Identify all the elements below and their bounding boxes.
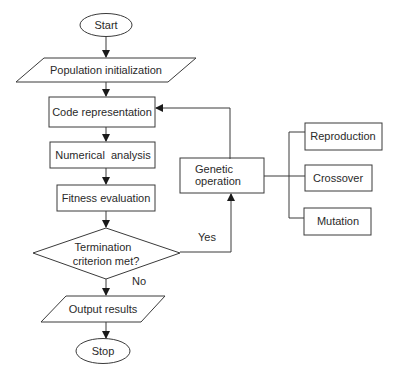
- branch-bus: [289, 132, 305, 218]
- start-label: Start: [94, 19, 117, 31]
- edge-genetic-to-code-loop: [156, 108, 230, 159]
- mutation-label: Mutation: [317, 215, 359, 227]
- edge-yes-to-genetic: [180, 194, 231, 252]
- genetic-operation-label-line1: Genetic: [195, 163, 233, 175]
- termination-label-line2: criterion met?: [73, 255, 140, 267]
- genetic-operation-label-line2: operation: [195, 175, 241, 187]
- output-results-label: Output results: [69, 303, 138, 315]
- termination-label-line1: Termination: [75, 241, 132, 253]
- stop-label: Stop: [92, 345, 115, 357]
- crossover-label: Crossover: [313, 172, 363, 184]
- termination-node: [33, 228, 180, 279]
- no-label: No: [132, 275, 146, 287]
- numerical-analysis-label: Numerical analysis: [55, 149, 151, 161]
- population-init-label: Population initialization: [50, 64, 162, 76]
- reproduction-label: Reproduction: [310, 130, 375, 142]
- yes-label: Yes: [198, 231, 216, 243]
- fitness-evaluation-label: Fitness evaluation: [62, 192, 151, 204]
- code-representation-label: Code representation: [52, 106, 152, 118]
- flowchart: Start Population initialization Code rep…: [0, 0, 396, 381]
